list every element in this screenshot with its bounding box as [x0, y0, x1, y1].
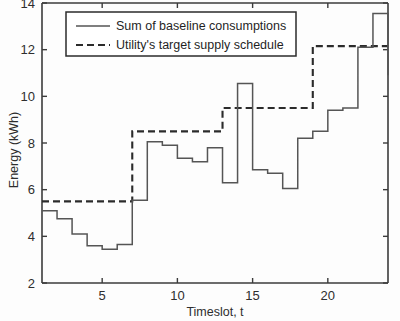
y-tick-label: 8 [28, 136, 35, 151]
chart-figure: 2468101214 5101520 Energy (kWh) Timeslot… [0, 0, 400, 321]
y-tick-label: 2 [28, 276, 35, 291]
chart-svg: 2468101214 5101520 Energy (kWh) Timeslot… [0, 0, 400, 321]
y-tick-label: 4 [28, 229, 35, 244]
x-tick-label: 5 [99, 288, 106, 303]
y-tick-label: 12 [21, 42, 35, 57]
x-tick-label: 10 [170, 288, 184, 303]
y-tick-label: 14 [21, 0, 35, 11]
x-tick-label: 20 [321, 288, 335, 303]
legend-label-baseline: Sum of baseline consumptions [116, 19, 286, 33]
series-utility-target-supply-schedule [42, 46, 388, 201]
y-tick-label: 6 [28, 182, 35, 197]
chart-legend: Sum of baseline consumptions Utility's t… [66, 12, 296, 56]
legend-label-target: Utility's target supply schedule [116, 38, 284, 52]
x-axis-label: Timeslot, t [186, 305, 244, 319]
x-tick-label: 15 [245, 288, 259, 303]
y-axis-label: Energy (kWh) [7, 112, 21, 188]
y-tick-label: 10 [21, 89, 35, 104]
